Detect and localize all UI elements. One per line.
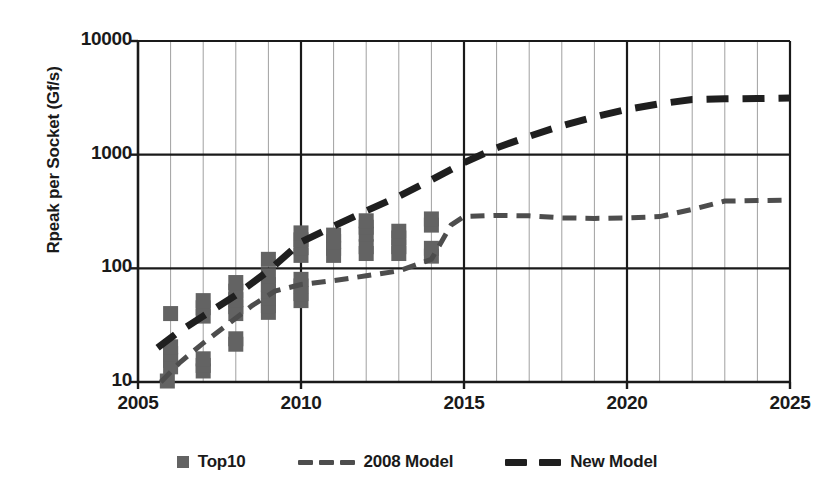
data-point-marker xyxy=(326,228,341,243)
chart-figure: Rpeak per Socket (Gf/s) 10100100010000 2… xyxy=(0,0,834,497)
square-marker-icon xyxy=(177,456,189,468)
legend-label-2008-model: 2008 Model xyxy=(364,452,454,472)
series-line-new-model xyxy=(158,98,790,348)
legend-item-2008-model[interactable]: 2008 Model xyxy=(298,452,454,472)
data-point-marker xyxy=(261,252,276,267)
data-point-marker xyxy=(196,293,211,308)
plot-area xyxy=(0,0,834,497)
data-point-marker xyxy=(228,331,243,346)
data-point-marker xyxy=(424,211,439,226)
dashed-thick-line-icon xyxy=(505,459,561,466)
data-point-marker xyxy=(391,224,406,239)
dashed-thin-line-icon xyxy=(298,460,355,465)
data-point-marker xyxy=(228,275,243,290)
data-point-marker xyxy=(424,241,439,256)
data-point-marker xyxy=(163,306,178,321)
legend-item-new-model[interactable]: New Model xyxy=(505,452,657,472)
legend-item-top10[interactable]: Top10 xyxy=(177,452,246,472)
data-point-marker xyxy=(359,213,374,228)
chart-legend: Top10 2008 Model New Model xyxy=(0,452,834,472)
legend-label-new-model: New Model xyxy=(570,452,657,472)
data-point-marker xyxy=(196,351,211,366)
series-line-2008-model xyxy=(161,200,790,382)
legend-label-top10: Top10 xyxy=(198,452,246,472)
